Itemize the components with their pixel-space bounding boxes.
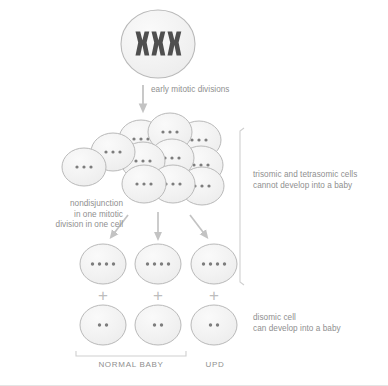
tetrasomic-row — [80, 244, 237, 284]
division-arrow-right — [190, 215, 206, 236]
zygote-cell — [121, 10, 195, 78]
plus-sign: + — [148, 287, 168, 304]
disomic-row — [80, 305, 237, 345]
trisomic-tetrasomic-annotation: trisomic and tetrasomic cells cannot dev… — [253, 170, 385, 191]
tetrasomic-cell — [80, 244, 126, 284]
cell-cluster — [62, 113, 224, 205]
disomic-annotation: disomic cell can develop into a baby — [253, 313, 385, 334]
plus-sign: + — [93, 287, 113, 304]
bracket-top — [240, 128, 244, 285]
mitosis-arrow-label: early mitotic divisions — [151, 85, 281, 96]
disomic-cell — [191, 305, 237, 345]
disomic-cell — [135, 305, 181, 345]
upd-label: UPD — [194, 360, 236, 369]
cluster-cell — [62, 148, 106, 186]
tetrasomic-cell — [135, 244, 181, 284]
cluster-cell — [122, 165, 166, 203]
disomic-cell — [80, 305, 126, 345]
bracket-normal-baby — [76, 351, 186, 356]
diagram-canvas: early mitotic divisions nondisjunction i… — [0, 0, 388, 386]
plus-sign: + — [204, 287, 224, 304]
tetrasomic-cell — [191, 244, 237, 284]
nondisjunction-label: nondisjunction in one mitotic division i… — [8, 199, 123, 231]
normal-baby-label: NORMAL BABY — [71, 360, 191, 369]
